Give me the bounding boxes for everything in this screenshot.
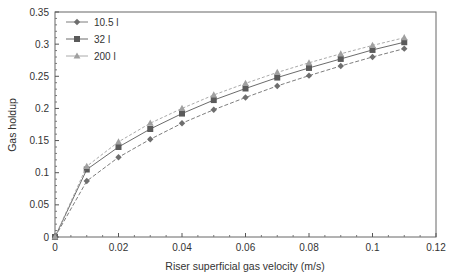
- square-marker-icon: [274, 75, 280, 81]
- square-marker-icon: [243, 86, 249, 92]
- y-tick-label: 0.3: [35, 39, 49, 50]
- diamond-marker-icon: [401, 45, 407, 51]
- diamond-marker-icon: [179, 120, 185, 126]
- diamond-marker-icon: [369, 54, 375, 60]
- diamond-marker-icon: [211, 107, 217, 113]
- diamond-marker-icon: [242, 94, 248, 100]
- data-series: [52, 34, 408, 240]
- triangle-marker-icon: [337, 50, 344, 56]
- x-tick-label: 0.02: [109, 242, 129, 253]
- y-tick-label: 0.35: [30, 7, 50, 18]
- legend-label: 32 l: [94, 34, 110, 45]
- legend-item: 32 l: [66, 34, 110, 45]
- triangle-marker-icon: [74, 52, 81, 58]
- diamond-marker-icon: [274, 83, 280, 89]
- x-tick-label: 0.12: [426, 242, 446, 253]
- legend-label: 10.5 l: [94, 17, 118, 28]
- square-marker-icon: [211, 97, 217, 103]
- square-marker-icon: [179, 111, 185, 117]
- legend-item: 200 l: [66, 51, 116, 62]
- triangle-marker-icon: [179, 105, 186, 111]
- triangle-marker-icon: [115, 138, 122, 144]
- square-marker-icon: [116, 144, 122, 150]
- y-tick-label: 0: [43, 232, 49, 243]
- diamond-marker-icon: [147, 136, 153, 142]
- x-tick-label: 0.1: [366, 242, 380, 253]
- series-10-5-l: [52, 45, 408, 240]
- legend: 10.5 l32 l200 l: [66, 17, 118, 62]
- y-tick-label: 0.1: [35, 167, 49, 178]
- triangle-marker-icon: [83, 163, 90, 169]
- plot-frame: [55, 12, 436, 237]
- x-tick-label: 0: [52, 242, 58, 253]
- triangle-marker-icon: [147, 120, 154, 126]
- diamond-marker-icon: [74, 19, 80, 25]
- x-tick-label: 0.06: [236, 242, 256, 253]
- legend-item: 10.5 l: [66, 17, 118, 28]
- y-tick-label: 0.2: [35, 103, 49, 114]
- gas-holdup-chart: 00.050.10.150.20.250.30.3500.020.040.060…: [0, 0, 457, 280]
- square-marker-icon: [306, 65, 312, 71]
- triangle-marker-icon: [401, 34, 408, 40]
- square-marker-icon: [147, 126, 153, 132]
- y-tick-label: 0.15: [30, 135, 50, 146]
- diamond-marker-icon: [115, 154, 121, 160]
- series-32-l: [52, 39, 407, 240]
- legend-label: 200 l: [94, 51, 116, 62]
- diamond-marker-icon: [338, 63, 344, 69]
- y-tick-label: 0.05: [30, 199, 50, 210]
- y-axis-label: Gas holdup: [6, 98, 18, 152]
- x-tick-label: 0.04: [172, 242, 192, 253]
- series-200-l: [52, 34, 408, 239]
- square-marker-icon: [338, 56, 344, 62]
- y-tick-label: 0.25: [30, 71, 50, 82]
- square-marker-icon: [74, 36, 80, 42]
- x-axis-label: Riser superficial gas velocity (m/s): [165, 260, 324, 272]
- x-tick-label: 0.08: [299, 242, 319, 253]
- triangle-marker-icon: [274, 69, 281, 75]
- axes: 00.050.10.150.20.250.30.3500.020.040.060…: [30, 7, 447, 254]
- diamond-marker-icon: [306, 72, 312, 78]
